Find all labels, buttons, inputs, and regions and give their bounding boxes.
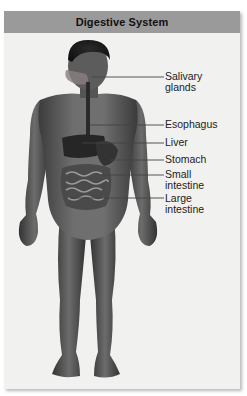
intestines-organ: [61, 164, 112, 210]
label-small-intestine: Small intestine: [165, 169, 204, 191]
label-large-intestine: Large intestine: [165, 193, 204, 215]
label-salivary-glands: Salivary glands: [165, 71, 202, 93]
label-liver: Liver: [165, 137, 188, 148]
label-stomach: Stomach: [165, 154, 206, 165]
human-body-illustration: [0, 0, 247, 396]
label-esophagus: Esophagus: [165, 119, 218, 130]
esophagus-organ: [86, 82, 90, 140]
